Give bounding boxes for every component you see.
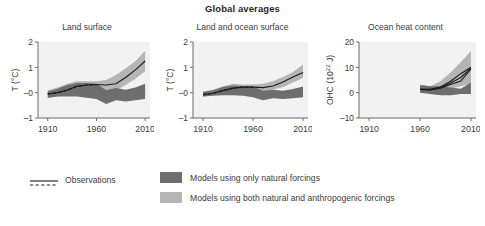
legend-item-anthropogenic-forcings: Models using both natural and anthropoge… bbox=[160, 192, 394, 203]
y-axis-label: T (°C) bbox=[10, 68, 20, 91]
x-tick-label: 1960 bbox=[410, 124, 430, 134]
x-tick-label: 2010 bbox=[461, 124, 480, 134]
legend-item-natural-forcings: Models using only natural forcings bbox=[160, 172, 320, 183]
y-tick-label: 20 bbox=[345, 37, 355, 47]
figure-legend: Observations Models using only natural f… bbox=[0, 160, 485, 222]
y-axis-label: T (°C) bbox=[165, 68, 175, 91]
x-tick-label: 2010 bbox=[293, 124, 312, 134]
chart-svg-land-surface: –1–012191019602010T (°C) bbox=[4, 36, 154, 144]
natural-forcings-swatch-icon bbox=[160, 172, 182, 183]
panel-title-land-surface: Land surface bbox=[4, 22, 154, 32]
x-tick-label: 1910 bbox=[359, 124, 379, 134]
climate-attribution-figure: Global averages Land surface –1–01219101… bbox=[0, 0, 485, 226]
y-tick-label: –0 bbox=[24, 88, 34, 98]
panel-title-ocean-heat-content: Ocean heat content bbox=[315, 22, 480, 32]
y-tick-label: –1 bbox=[24, 113, 34, 123]
observations-line-icon bbox=[30, 174, 58, 185]
panel-title-land-and-ocean-surface: Land and ocean surface bbox=[157, 22, 312, 32]
y-tick-label: 1 bbox=[183, 63, 188, 73]
legend-label-anthropogenic-forcings: Models using both natural and anthropoge… bbox=[190, 193, 394, 203]
panel-land-and-ocean-surface: Land and ocean surface –1–01219101960201… bbox=[157, 22, 312, 147]
y-tick-label: 1 bbox=[28, 63, 33, 73]
y-tick-label: 0 bbox=[349, 88, 354, 98]
chart-svg-land-and-ocean-surface: –1–012191019602010T (°C) bbox=[157, 36, 312, 144]
legend-label-natural-forcings: Models using only natural forcings bbox=[190, 173, 320, 183]
figure-title: Global averages bbox=[0, 3, 485, 14]
plot-area-ocean-heat-content: –1001020191019602010OHC (1022 J) bbox=[315, 36, 480, 144]
y-tick-label: 10 bbox=[345, 63, 355, 73]
x-tick-label: 1960 bbox=[87, 124, 107, 134]
x-tick-label: 1910 bbox=[193, 124, 213, 134]
legend-label-observations: Observations bbox=[65, 175, 116, 185]
plot-area-land-surface: –1–012191019602010T (°C) bbox=[4, 36, 154, 144]
y-tick-label: 2 bbox=[28, 37, 33, 47]
x-tick-label: 2010 bbox=[135, 124, 154, 134]
x-tick-label: 1960 bbox=[243, 124, 263, 134]
y-tick-label: 2 bbox=[183, 37, 188, 47]
anthropogenic-forcings-swatch-icon bbox=[160, 192, 182, 203]
panel-land-surface: Land surface –1–012191019602010T (°C) bbox=[4, 22, 154, 147]
legend-item-observations: Observations bbox=[30, 174, 116, 185]
x-tick-label: 1910 bbox=[38, 124, 58, 134]
y-axis-label: OHC (1022 J) bbox=[325, 55, 335, 105]
y-tick-label: –0 bbox=[179, 88, 189, 98]
y-tick-label: –1 bbox=[179, 113, 189, 123]
panel-ocean-heat-content: Ocean heat content –1001020191019602010O… bbox=[315, 22, 480, 147]
chart-svg-ocean-heat-content: –1001020191019602010OHC (1022 J) bbox=[315, 36, 480, 144]
plot-area-land-and-ocean-surface: –1–012191019602010T (°C) bbox=[157, 36, 312, 144]
y-tick-label: –10 bbox=[340, 113, 354, 123]
